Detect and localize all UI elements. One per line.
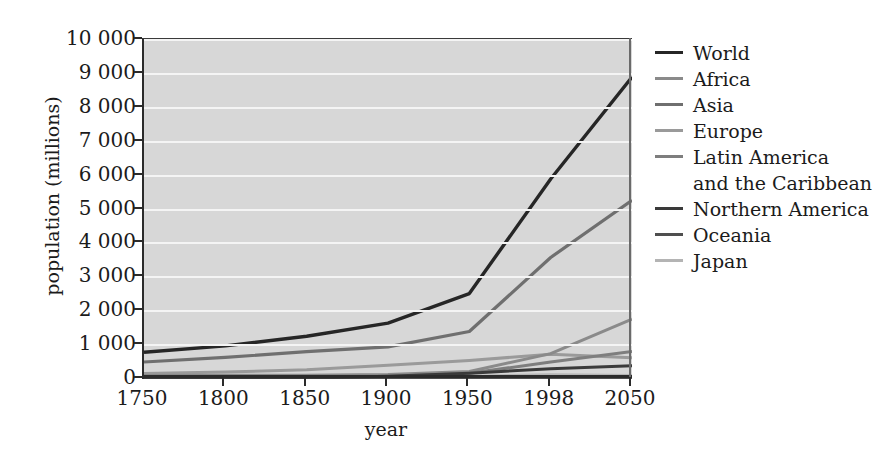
- legend-line-swatch-icon: [655, 233, 683, 236]
- x-tick-mark: [466, 377, 468, 386]
- y-tick-label: 3 000: [36, 263, 136, 287]
- legend-item[interactable]: Africa: [655, 66, 891, 92]
- x-tick-label: 1850: [260, 386, 350, 410]
- x-tick-label: 1900: [341, 386, 431, 410]
- legend-label: Africa: [693, 66, 751, 92]
- y-tick-mark: [134, 139, 142, 141]
- y-tick-label: 6 000: [36, 162, 136, 186]
- legend-line-swatch-icon: [655, 77, 683, 80]
- y-tick-mark: [134, 105, 142, 107]
- x-tick-label: 1950: [422, 386, 512, 410]
- y-tick-mark: [134, 173, 142, 175]
- legend-label: World: [693, 40, 750, 66]
- y-tick-label: 4 000: [36, 229, 136, 253]
- y-tick-mark: [134, 240, 142, 242]
- y-tick-mark: [134, 207, 142, 209]
- gridline: [144, 344, 632, 346]
- x-tick-label: 1750: [97, 386, 187, 410]
- legend-item[interactable]: Northern America: [655, 196, 891, 222]
- plot-area: [142, 38, 632, 379]
- y-axis-tick-labels: 01 0002 0003 0004 0005 0006 0007 0008 00…: [32, 0, 136, 451]
- legend-item[interactable]: Japan: [655, 248, 891, 274]
- gridline: [144, 175, 632, 177]
- gridline: [144, 310, 632, 312]
- gridline: [144, 141, 632, 143]
- legend-item[interactable]: Latin America and the Caribbean: [655, 144, 891, 196]
- legend-item[interactable]: World: [655, 40, 891, 66]
- y-tick-label: 8 000: [36, 94, 136, 118]
- x-axis-line: [142, 375, 632, 378]
- legend-label: Japan: [693, 248, 748, 274]
- y-tick-mark: [134, 71, 142, 73]
- y-tick-mark: [134, 342, 142, 344]
- gridline: [144, 276, 632, 278]
- legend-line-swatch-icon: [655, 259, 683, 262]
- legend-item[interactable]: Oceania: [655, 222, 891, 248]
- population-line-chart: population (millions) 01 0002 0003 0004 …: [0, 0, 894, 451]
- y-tick-mark: [134, 376, 142, 378]
- gridline: [144, 209, 632, 211]
- legend-line-swatch-icon: [655, 103, 683, 106]
- y-tick-label: 1 000: [36, 331, 136, 355]
- x-tick-label: 1998: [504, 386, 594, 410]
- x-tick-mark: [548, 377, 550, 386]
- legend-label: Latin America and the Caribbean: [693, 144, 872, 196]
- y-tick-label: 10 000: [36, 26, 136, 50]
- x-tick-mark: [222, 377, 224, 386]
- legend-label: Europe: [693, 118, 763, 144]
- x-tick-mark: [629, 377, 631, 386]
- legend-line-swatch-icon: [655, 155, 683, 158]
- y-tick-label: 9 000: [36, 60, 136, 84]
- y-tick-mark: [134, 308, 142, 310]
- legend: WorldAfricaAsiaEuropeLatin America and t…: [655, 40, 891, 274]
- plot-right-border: [629, 38, 631, 377]
- x-axis-title: year: [142, 418, 630, 440]
- legend-item[interactable]: Asia: [655, 92, 891, 118]
- y-tick-label: 5 000: [36, 196, 136, 220]
- legend-label: Oceania: [693, 222, 771, 248]
- gridline: [144, 107, 632, 109]
- gridline: [144, 242, 632, 244]
- legend-line-swatch-icon: [655, 207, 683, 210]
- x-tick-label: 1800: [178, 386, 268, 410]
- y-tick-label: 7 000: [36, 128, 136, 152]
- series-line-asia: [144, 200, 632, 362]
- y-tick-mark: [134, 37, 142, 39]
- legend-label: Northern America: [693, 196, 869, 222]
- x-tick-mark: [385, 377, 387, 386]
- x-tick-mark: [304, 377, 306, 386]
- legend-item[interactable]: Europe: [655, 118, 891, 144]
- y-tick-mark: [134, 274, 142, 276]
- legend-line-swatch-icon: [655, 129, 683, 132]
- y-tick-label: 2 000: [36, 297, 136, 321]
- x-tick-label: 2050: [585, 386, 675, 410]
- legend-label: Asia: [693, 92, 734, 118]
- legend-line-swatch-icon: [655, 51, 683, 54]
- gridline: [144, 73, 632, 75]
- gridline: [144, 39, 632, 41]
